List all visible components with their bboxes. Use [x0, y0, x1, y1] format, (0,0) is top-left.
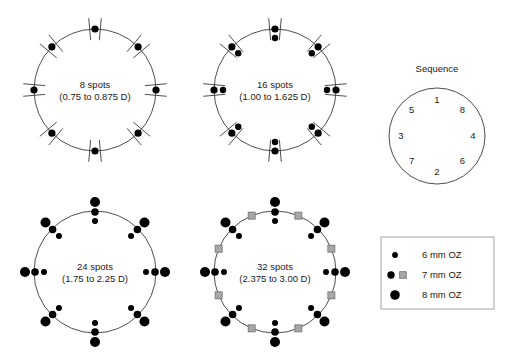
spot-marker-dot	[49, 226, 57, 234]
spot-marker-square	[215, 245, 222, 252]
sequence-number: 7	[409, 155, 414, 166]
spot-marker-dot	[228, 130, 235, 137]
spot-marker-dot	[228, 43, 235, 50]
spot-marker-dot	[319, 316, 329, 326]
spot-marker-square	[328, 292, 335, 299]
sequence-number: 4	[470, 130, 475, 141]
spot-marker-dot	[143, 269, 149, 275]
spot-marker-square	[215, 292, 222, 299]
spot-marker-dot	[49, 311, 57, 319]
spot-marker-dot	[91, 328, 99, 336]
panel-label-range: (0.75 to 0.875 D)	[59, 91, 130, 102]
spot-marker-square	[248, 212, 255, 219]
spot-marker-dot	[92, 218, 98, 224]
panel-label-range: (1.75 to 2.25 D)	[62, 273, 128, 284]
spot-marker-dot	[135, 43, 142, 50]
spot-marker-dot	[271, 147, 278, 154]
spot-marker-square	[295, 212, 302, 219]
legend-label: 7 mm OZ	[422, 269, 462, 280]
spot-marker-dot	[319, 218, 329, 228]
spot-marker-dot	[90, 197, 100, 207]
spot-marker-dot	[229, 226, 237, 234]
spot-marker-dot	[340, 267, 350, 277]
spot-marker-dot	[134, 311, 142, 319]
spot-marker-dot	[235, 50, 241, 56]
spot-marker-dot	[315, 130, 322, 137]
spot-marker-dot	[139, 218, 149, 228]
spot-marker-dot	[323, 269, 329, 275]
spot-marker-dot	[332, 86, 339, 93]
spot-marker-dot	[235, 124, 241, 130]
spot-marker-dot	[271, 25, 278, 32]
spot-marker-dot	[128, 305, 134, 311]
legend-marker-dot	[387, 271, 394, 278]
spot-marker-dot	[221, 316, 231, 326]
spot-marker-dot	[152, 86, 159, 93]
spot-marker-dot	[270, 197, 280, 207]
spot-marker-dot	[324, 87, 330, 93]
spot-marker-dot	[128, 233, 134, 239]
panel-label-count: 24 spots	[77, 261, 113, 272]
spot-marker-dot	[91, 208, 99, 216]
spot-marker-dot	[220, 87, 226, 93]
spot-marker-dot	[90, 337, 100, 347]
spot-marker-dot	[272, 35, 278, 41]
spot-marker-dot	[41, 218, 51, 228]
spot-marker-square	[248, 325, 255, 332]
panel-label: 8 spots(0.75 to 0.875 D)	[59, 79, 130, 102]
spot-marker-dot	[92, 320, 98, 326]
spot-marker-dot	[56, 305, 62, 311]
spot-marker-dot	[221, 269, 227, 275]
spot-marker-dot	[236, 305, 242, 311]
sequence-number: 6	[460, 155, 465, 166]
spot-marker-dot	[200, 267, 210, 277]
panel-label-count: 16 spots	[257, 79, 293, 90]
spot-marker-dot	[211, 268, 219, 276]
spot-marker-dot	[308, 233, 314, 239]
spot-marker-dot	[48, 43, 55, 50]
spot-marker-dot	[20, 267, 30, 277]
spot-marker-dot	[91, 25, 98, 32]
spot-marker-dot	[160, 267, 170, 277]
legend-marker-square	[400, 272, 407, 279]
figure-canvas: 8 spots(0.75 to 0.875 D)16 spots(1.00 to…	[0, 0, 505, 363]
spot-marker-dot	[210, 86, 217, 93]
spot-marker-dot	[31, 268, 39, 276]
sequence-number: 3	[398, 130, 403, 141]
spot-marker-dot	[134, 226, 142, 234]
spot-marker-dot	[309, 124, 315, 130]
legend-label: 8 mm OZ	[422, 289, 462, 300]
legend-marker-dot	[392, 252, 398, 258]
spot-marker-dot	[30, 86, 37, 93]
legend-label: 6 mm OZ	[422, 249, 462, 260]
panel-label: 16 spots(1.00 to 1.625 D)	[239, 79, 310, 102]
panel-16-spots: 16 spots(1.00 to 1.625 D)	[203, 18, 346, 161]
spot-marker-dot	[48, 130, 55, 137]
spot-marker-dot	[272, 139, 278, 145]
spot-marker-dot	[309, 50, 315, 56]
spot-marker-dot	[91, 147, 98, 154]
sequence-number: 2	[434, 166, 439, 177]
spot-marker-dot	[236, 233, 242, 239]
sequence-number: 1	[434, 94, 439, 105]
spot-marker-dot	[221, 218, 231, 228]
spot-pattern-figure: 8 spots(0.75 to 0.875 D)16 spots(1.00 to…	[0, 0, 505, 363]
spot-marker-dot	[271, 328, 279, 336]
spot-marker-dot	[229, 311, 237, 319]
panel-label: 24 spots(1.75 to 2.25 D)	[62, 261, 128, 284]
spot-marker-dot	[315, 43, 322, 50]
spot-marker-dot	[272, 218, 278, 224]
panel-32-spots: 32 spots(2.375 to 3.00 D)	[200, 197, 350, 347]
spot-marker-dot	[271, 208, 279, 216]
panel-sequence: Sequence18462735	[389, 63, 485, 184]
sequence-number: 8	[460, 104, 465, 115]
spot-marker-dot	[331, 268, 339, 276]
panel-label-range: (2.375 to 3.00 D)	[239, 273, 310, 284]
spot-marker-dot	[135, 130, 142, 137]
spot-marker-dot	[314, 311, 322, 319]
sequence-number: 5	[409, 104, 414, 115]
panel-label: 32 spots(2.375 to 3.00 D)	[239, 261, 310, 284]
spot-marker-dot	[139, 316, 149, 326]
panel-24-spots: 24 spots(1.75 to 2.25 D)	[20, 197, 170, 347]
spot-marker-dot	[151, 268, 159, 276]
